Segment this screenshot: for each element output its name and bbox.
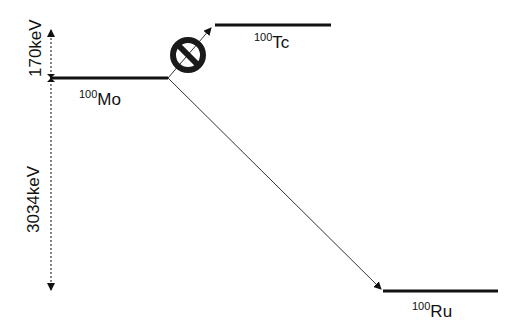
prohibited-icon	[173, 40, 203, 70]
tc-label: 100Tc	[254, 31, 289, 53]
transition-mo-to-ru	[168, 78, 381, 289]
mo-label: 100Mo	[79, 88, 121, 110]
ru-label: 100Ru	[412, 300, 452, 322]
energy-label-170: 170keV	[26, 19, 46, 77]
energy-label-3034: 3034keV	[24, 166, 44, 233]
